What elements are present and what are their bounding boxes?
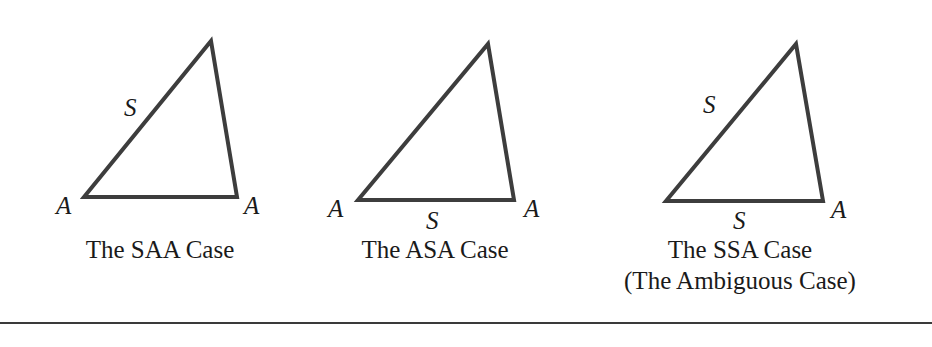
horizontal-rule — [0, 322, 932, 324]
asa-vertex-left-label: A — [328, 196, 343, 221]
asa-triangle — [358, 44, 514, 200]
saa-vertex-right-label: A — [244, 193, 259, 218]
saa-side-label: S — [124, 95, 137, 120]
ssa-vertex-right-label: A — [831, 197, 846, 222]
asa-side-label: S — [426, 208, 439, 233]
ssa-caption: The SSA Case — [620, 235, 860, 265]
ssa-side-bottom-label: S — [733, 208, 746, 233]
asa-caption: The ASA Case — [335, 235, 535, 265]
saa-triangle — [84, 41, 237, 197]
asa-vertex-right-label: A — [524, 196, 539, 221]
ssa-side-left-label: S — [703, 92, 716, 117]
ssa-caption-subtitle: (The Ambiguous Case) — [590, 266, 890, 296]
ssa-triangle — [666, 44, 823, 201]
saa-vertex-left-label: A — [56, 193, 71, 218]
saa-caption: The SAA Case — [60, 235, 260, 265]
